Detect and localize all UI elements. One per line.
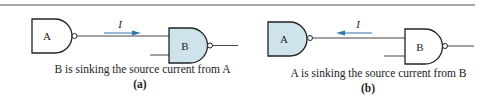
current-arrow-right-icon xyxy=(104,31,141,36)
gate-label-a: A xyxy=(43,30,51,42)
nand-gate-b-right xyxy=(169,28,238,63)
caption-a: B is sinking the source current from A xyxy=(40,63,245,75)
nand-gate-b-left xyxy=(268,22,313,56)
gate-label-a-b: A xyxy=(280,33,288,45)
gate-label-b-b: B xyxy=(416,41,423,53)
subfigure-label-a: (a) xyxy=(120,78,160,90)
caption-b: A is sinking the source current from B xyxy=(276,67,481,79)
diagram-canvas: A B I A B I xyxy=(0,0,492,96)
subfigure-label-b: (b) xyxy=(348,82,388,94)
panel-b: A B I xyxy=(268,18,474,64)
panel-a: A B I xyxy=(32,18,238,63)
gate-label-b: B xyxy=(181,40,188,52)
current-label-b: I xyxy=(355,18,361,30)
current-arrow-left-icon xyxy=(336,31,372,36)
nand-gate-a-left xyxy=(32,19,77,53)
current-label-a: I xyxy=(117,18,123,30)
